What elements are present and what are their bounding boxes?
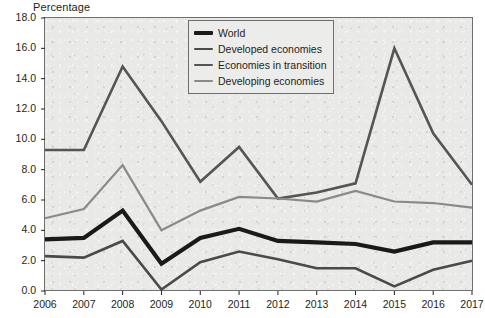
y-axis-tick-label: 4.0 (6, 223, 36, 235)
y-axis-tick-label: 16.0 (6, 41, 36, 53)
x-axis-tick-label: 2014 (335, 298, 377, 310)
x-axis-tick-label: 2008 (102, 298, 144, 310)
legend-line-sample (194, 64, 213, 67)
x-axis-tick-label: 2009 (140, 298, 182, 310)
legend-item-world[interactable]: World (194, 25, 328, 41)
x-axis-tick-label: 2015 (373, 298, 415, 310)
legend-label: World (218, 25, 245, 41)
legend-line-sample (194, 48, 213, 51)
x-axis-tick-label: 2013 (296, 298, 338, 310)
y-axis-tick-label: 14.0 (6, 72, 36, 84)
legend-item-economies-in-transition[interactable]: Economies in transition (194, 57, 328, 73)
x-axis-tick-label: 2017 (451, 298, 485, 310)
legend-color-swatch (194, 64, 213, 67)
legend-color-swatch (194, 48, 213, 51)
y-axis-tick-label: 6.0 (6, 193, 36, 205)
legend-line-sample (194, 80, 213, 82)
y-axis-tick-label: 8.0 (6, 163, 36, 175)
legend-item-developed-economies[interactable]: Developed economies (194, 41, 328, 57)
chart-screenshot: Percentage 18.016.014.012.010.08.06.04.0… (0, 0, 485, 318)
y-axis-tick-label: 0.0 (6, 284, 36, 296)
legend-line-sample (194, 31, 213, 35)
x-axis-tick-label: 2016 (412, 298, 454, 310)
chart-legend: WorldDeveloped economiesEconomies in tra… (188, 20, 334, 94)
y-axis-tick-label: 2.0 (6, 254, 36, 266)
legend-label: Economies in transition (218, 57, 327, 73)
legend-color-swatch (194, 31, 213, 35)
y-axis-tick-label: 10.0 (6, 132, 36, 144)
legend-item-developing-economies[interactable]: Developing economies (194, 73, 328, 89)
x-axis-tick-label: 2007 (63, 298, 105, 310)
y-axis-tick-label: 12.0 (6, 102, 36, 114)
x-axis-tick-label: 2006 (24, 298, 66, 310)
x-axis-tick-label: 2012 (257, 298, 299, 310)
legend-label: Developing economies (218, 73, 324, 89)
legend-color-swatch (194, 80, 213, 82)
x-axis-tick-label: 2010 (179, 298, 221, 310)
legend-label: Developed economies (218, 41, 322, 57)
x-axis-tick-label: 2011 (218, 298, 260, 310)
y-axis-tick-label: 18.0 (6, 11, 36, 23)
